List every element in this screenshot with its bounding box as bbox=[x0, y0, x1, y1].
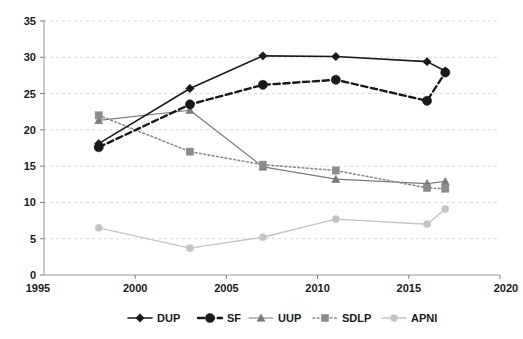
data-point-sdlp-1998 bbox=[95, 112, 102, 119]
legend-item-sf[interactable]: SF bbox=[198, 312, 241, 324]
legend-label-uup: UUP bbox=[278, 312, 301, 324]
legend-item-sdlp[interactable]: SDLP bbox=[313, 312, 371, 324]
data-point-sdlp-2007 bbox=[259, 161, 266, 168]
data-point-dup-2016 bbox=[423, 57, 431, 65]
x-tick-label: 2015 bbox=[397, 282, 421, 294]
series-line-dup bbox=[99, 56, 446, 144]
series-dup bbox=[95, 52, 450, 148]
data-point-apni-2016 bbox=[423, 221, 430, 228]
data-point-sdlp-2011 bbox=[332, 167, 339, 174]
y-tick-label: 10 bbox=[24, 196, 36, 208]
y-tick-label: 25 bbox=[24, 88, 36, 100]
data-point-dup-2011 bbox=[332, 52, 340, 60]
data-point-sdlp-2017 bbox=[442, 185, 449, 192]
data-point-sf-2007 bbox=[258, 80, 267, 89]
data-point-sdlp-2003 bbox=[186, 148, 193, 155]
series-sf bbox=[94, 68, 450, 152]
y-tick-label: 30 bbox=[24, 51, 36, 63]
data-point-apni-2011 bbox=[332, 216, 339, 223]
data-point-sf-2003 bbox=[185, 100, 194, 109]
data-point-uup-2017 bbox=[441, 177, 449, 184]
legend-marker-apni bbox=[390, 314, 397, 321]
y-tick-label: 35 bbox=[24, 15, 36, 27]
y-tick-label: 15 bbox=[24, 160, 36, 172]
data-series-layer bbox=[94, 52, 450, 252]
data-point-apni-2007 bbox=[259, 234, 266, 241]
data-point-sf-2011 bbox=[331, 75, 340, 84]
series-uup bbox=[95, 106, 450, 187]
chart-container: 05101520253035 199520002005201020152020 … bbox=[0, 0, 523, 339]
axes bbox=[40, 20, 500, 279]
legend-label-sdlp: SDLP bbox=[342, 312, 371, 324]
data-point-dup-2003 bbox=[186, 84, 194, 92]
legend-item-uup[interactable]: UUP bbox=[249, 312, 301, 324]
series-line-apni bbox=[99, 209, 446, 248]
series-apni bbox=[95, 205, 449, 251]
x-tick-label: 2005 bbox=[214, 282, 238, 294]
y-tick-label: 20 bbox=[24, 124, 36, 136]
data-point-apni-1998 bbox=[95, 224, 102, 231]
legend-label-dup: DUP bbox=[157, 312, 180, 324]
data-point-dup-2007 bbox=[259, 52, 267, 60]
legend-marker-sdlp bbox=[321, 314, 328, 321]
x-tick-label: 2020 bbox=[494, 282, 518, 294]
x-tick-label: 1995 bbox=[26, 282, 50, 294]
y-tick-label: 0 bbox=[30, 269, 36, 281]
data-point-sdlp-2016 bbox=[423, 184, 430, 191]
legend-marker-sf bbox=[205, 313, 214, 322]
gridlines bbox=[44, 21, 500, 239]
series-line-sdlp bbox=[99, 115, 446, 188]
data-point-apni-2017 bbox=[442, 205, 449, 212]
legend-label-sf: SF bbox=[227, 312, 241, 324]
y-tick-label: 5 bbox=[30, 233, 36, 245]
legend-item-apni[interactable]: APNI bbox=[382, 312, 437, 324]
y-axis-tick-labels: 05101520253035 bbox=[24, 15, 36, 281]
x-tick-label: 2010 bbox=[305, 282, 329, 294]
legend-label-apni: APNI bbox=[411, 312, 437, 324]
series-line-uup bbox=[99, 110, 446, 183]
x-axis-tick-labels: 199520002005201020152020 bbox=[26, 282, 518, 294]
data-point-sf-2016 bbox=[422, 96, 431, 105]
legend-item-dup[interactable]: DUP bbox=[128, 312, 180, 324]
legend-marker-dup bbox=[136, 314, 144, 322]
data-point-apni-2003 bbox=[186, 245, 193, 252]
x-tick-label: 2000 bbox=[123, 282, 147, 294]
line-chart: 05101520253035 199520002005201020152020 … bbox=[0, 0, 523, 339]
chart-legend: DUPSFUUPSDLPAPNI bbox=[128, 312, 437, 324]
